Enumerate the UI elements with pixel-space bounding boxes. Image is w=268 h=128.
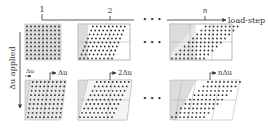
particle-dot (195, 54, 197, 56)
particle-dot (187, 54, 189, 56)
particle-dot (108, 46, 110, 48)
particle-dot (215, 81, 217, 83)
particle-dot (50, 26, 52, 28)
particle-dot (92, 90, 94, 92)
particle-dot (188, 112, 190, 114)
particle-dot (94, 30, 96, 32)
particle-dot (59, 86, 61, 88)
particle-dot (91, 116, 93, 118)
particle-dot (42, 30, 44, 32)
particle-dot (200, 34, 202, 36)
particle-dot (218, 90, 220, 92)
particle-dot (206, 90, 208, 92)
load-step-diagram: 1 2 • • • n load-step Δu applied • • • (0, 0, 268, 128)
particle-dot (60, 81, 62, 83)
particle-dot (87, 108, 89, 110)
particle-dot (235, 81, 237, 83)
particle-dot (46, 99, 48, 101)
particle-dot (100, 90, 102, 92)
particle-dot (106, 86, 108, 88)
particle-dot (93, 34, 95, 36)
particle-dot (209, 99, 211, 101)
particle-dot (60, 108, 62, 110)
particle-dot (216, 34, 218, 36)
particle-dot (198, 94, 200, 96)
particle-dot (217, 26, 219, 28)
particle-dot (84, 46, 86, 48)
particle-dot (231, 81, 233, 83)
particle-dot (105, 34, 107, 36)
particle-dot (56, 81, 58, 83)
particle-dot (38, 50, 40, 52)
particle-dot (192, 46, 194, 48)
particle-dot (175, 54, 177, 56)
particle-dot (111, 38, 113, 40)
particle-dot (205, 26, 207, 28)
delta-u-offset-label: Δu (26, 67, 34, 74)
particle-dot (34, 58, 36, 60)
particle-dot (90, 30, 92, 32)
panel-row1-step1 (25, 24, 61, 60)
particle-dot (34, 38, 36, 40)
particle-dot (110, 50, 112, 52)
particle-dot (58, 42, 60, 44)
particle-dot (204, 50, 206, 52)
particle-dot (113, 34, 115, 36)
particle-dot (192, 38, 194, 40)
particle-dot (218, 94, 220, 96)
particle-dot (106, 50, 108, 52)
particle-dot (221, 99, 223, 101)
particle-dot (36, 112, 38, 114)
particle-dot (205, 99, 207, 101)
particle-dot (42, 94, 44, 96)
row2-arrow-label-2: 2Δu (118, 69, 133, 77)
particle-dot (116, 26, 118, 28)
particle-dot (93, 103, 95, 105)
particle-dot (229, 30, 231, 32)
particle-dot (208, 112, 210, 114)
particle-dot (111, 108, 113, 110)
particle-dot (126, 86, 128, 88)
particle-dot (38, 94, 40, 96)
particle-dot (26, 38, 28, 40)
particle-dot (96, 81, 98, 83)
particle-dot (42, 54, 44, 56)
particle-dot (61, 103, 63, 105)
particle-dot (34, 94, 36, 96)
particle-dot (50, 58, 52, 60)
row2-ellipsis: • • • (142, 94, 161, 103)
particle-dot (192, 112, 194, 114)
particle-dot (54, 46, 56, 48)
particle-dot (225, 30, 227, 32)
particle-dot (114, 42, 116, 44)
particle-dot (191, 58, 193, 60)
particle-dot (212, 42, 214, 44)
particle-dot (26, 34, 28, 36)
particle-dot (38, 46, 40, 48)
particle-dot (79, 58, 81, 60)
particle-dot (216, 38, 218, 40)
particle-dot (51, 116, 53, 118)
particle-dot (86, 50, 88, 52)
panel-row2-step2: 2Δu (78, 69, 133, 120)
particle-dot (111, 58, 113, 60)
particle-dot (58, 58, 60, 60)
particle-dot (92, 99, 94, 101)
particle-dot (212, 34, 214, 36)
particle-dot (60, 112, 62, 114)
particle-dot (192, 50, 194, 52)
particle-dot (124, 90, 126, 92)
particle-dot (35, 86, 37, 88)
particle-dot (118, 86, 120, 88)
particle-dot (200, 38, 202, 40)
particle-dot (193, 99, 195, 101)
particle-dot (38, 38, 40, 40)
particle-dot (105, 54, 107, 56)
particle-dot (237, 26, 239, 28)
particle-dot (40, 81, 42, 83)
particle-dot (219, 81, 221, 83)
particle-dot (26, 42, 28, 44)
particle-dot (56, 112, 58, 114)
particle-dot (203, 116, 205, 118)
particle-dot (102, 94, 104, 96)
